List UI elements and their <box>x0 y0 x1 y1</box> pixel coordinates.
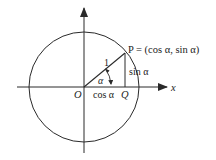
radius-label: 1 <box>104 57 109 68</box>
x-axis-label: x <box>170 82 176 93</box>
point-q-label: Q <box>121 89 129 100</box>
point-p-label: P = (cos α, sin α) <box>128 44 200 56</box>
unit-circle-diagram: P = (cos α, sin α) 1 α sin α O cos α Q x <box>0 0 216 160</box>
angle-arc-back-arrow <box>105 69 110 74</box>
cosine-label: cos α <box>93 89 115 100</box>
angle-label: α <box>98 75 104 86</box>
sine-label: sin α <box>129 66 149 77</box>
origin-label: O <box>74 89 82 100</box>
